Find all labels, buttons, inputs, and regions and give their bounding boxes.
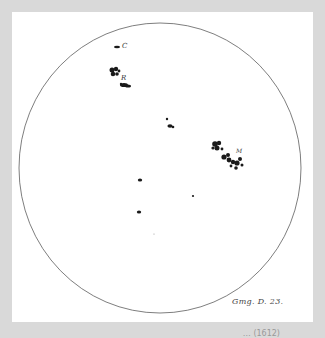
spot-label-r: R [121,74,126,82]
sunspot-group-m [211,141,243,170]
sunspot-isolated [137,179,194,235]
spot-label-c: C [122,42,127,50]
plate-label: Gmg. D. 23. [232,297,283,306]
sunspot-central [166,118,175,129]
sunspot-c [114,46,120,48]
caption-text: … (1612) [243,329,280,338]
spot-label-m: M [236,147,242,154]
sun-disk-drawing [0,0,325,338]
figure-caption: … (1612) [8,329,320,338]
sun-disk-outline [19,23,301,313]
